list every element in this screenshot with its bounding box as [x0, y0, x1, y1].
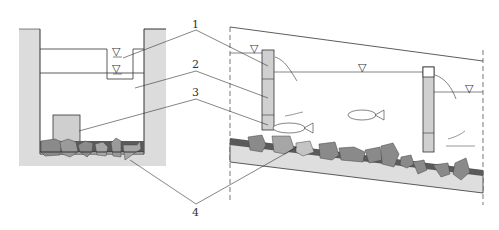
water-level-icon: ▽	[465, 82, 474, 95]
water-level-icon: ▽	[250, 42, 259, 55]
label-4: 4	[192, 206, 199, 219]
fish-icon	[348, 110, 384, 120]
fishway-diagram: ▽ ▽ ▽ ▽ ▽	[0, 0, 499, 230]
cross-section: ▽ ▽	[19, 29, 166, 166]
water-level-icon: ▽	[112, 62, 121, 75]
label-1: 1	[192, 18, 199, 31]
water-level-icon: ▽	[358, 61, 367, 74]
longitudinal-section: ▽ ▽ ▽	[230, 27, 483, 205]
fish-icon	[273, 123, 313, 133]
label-3: 3	[192, 86, 199, 99]
water-level-icon: ▽	[112, 45, 121, 58]
label-2: 2	[192, 58, 199, 71]
